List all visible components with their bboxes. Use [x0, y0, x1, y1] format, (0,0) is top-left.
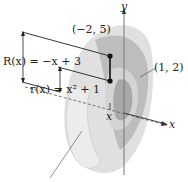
point-bottom-marker [107, 78, 112, 83]
r-equation-label: r(x) = x² + 1 [30, 84, 100, 95]
y-axis-label: y [121, 1, 127, 12]
R-equation-label: R(x) = −x + 3 [3, 56, 81, 67]
x-marker-label: x [106, 111, 112, 122]
x-axis-arrow-icon [161, 121, 168, 126]
point-top-label: (−2, 5) [72, 24, 111, 35]
R-arrow-up-icon [21, 31, 25, 36]
x-axis-label: x [169, 119, 175, 130]
point-top-marker [107, 53, 112, 58]
point-right-label: (1, 2) [154, 62, 184, 73]
